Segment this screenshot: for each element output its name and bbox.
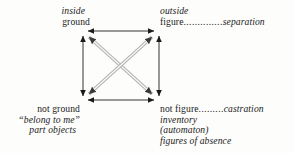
corner-bottom-left-line-3: part objects xyxy=(6,125,80,136)
relation-value-separation: separation xyxy=(223,16,265,27)
corner-label-top-right: outside figure..............separation xyxy=(160,6,265,27)
relation-value-castration: castration xyxy=(224,103,264,114)
corner-top-left-line-2: ground xyxy=(18,17,90,28)
relation-term-not-figure: not figure xyxy=(160,103,199,114)
diagram-canvas: inside ground outside figure............… xyxy=(0,0,295,153)
corner-label-bottom-right: not figure.........castration inventory … xyxy=(160,104,264,147)
relation-leader-dots-bottom-right: ......... xyxy=(199,103,224,114)
relation-leader-dots-top-right: .............. xyxy=(184,16,223,27)
corner-top-right-relation: figure..............separation xyxy=(160,17,265,28)
corner-bottom-right-line-3: figures of absence xyxy=(160,136,264,147)
diagonal-edges xyxy=(89,37,152,94)
corner-label-top-left: inside ground xyxy=(18,6,90,27)
corner-label-bottom-left: not ground “belong to me” part objects xyxy=(6,104,80,136)
relation-term-figure: figure xyxy=(160,16,184,27)
